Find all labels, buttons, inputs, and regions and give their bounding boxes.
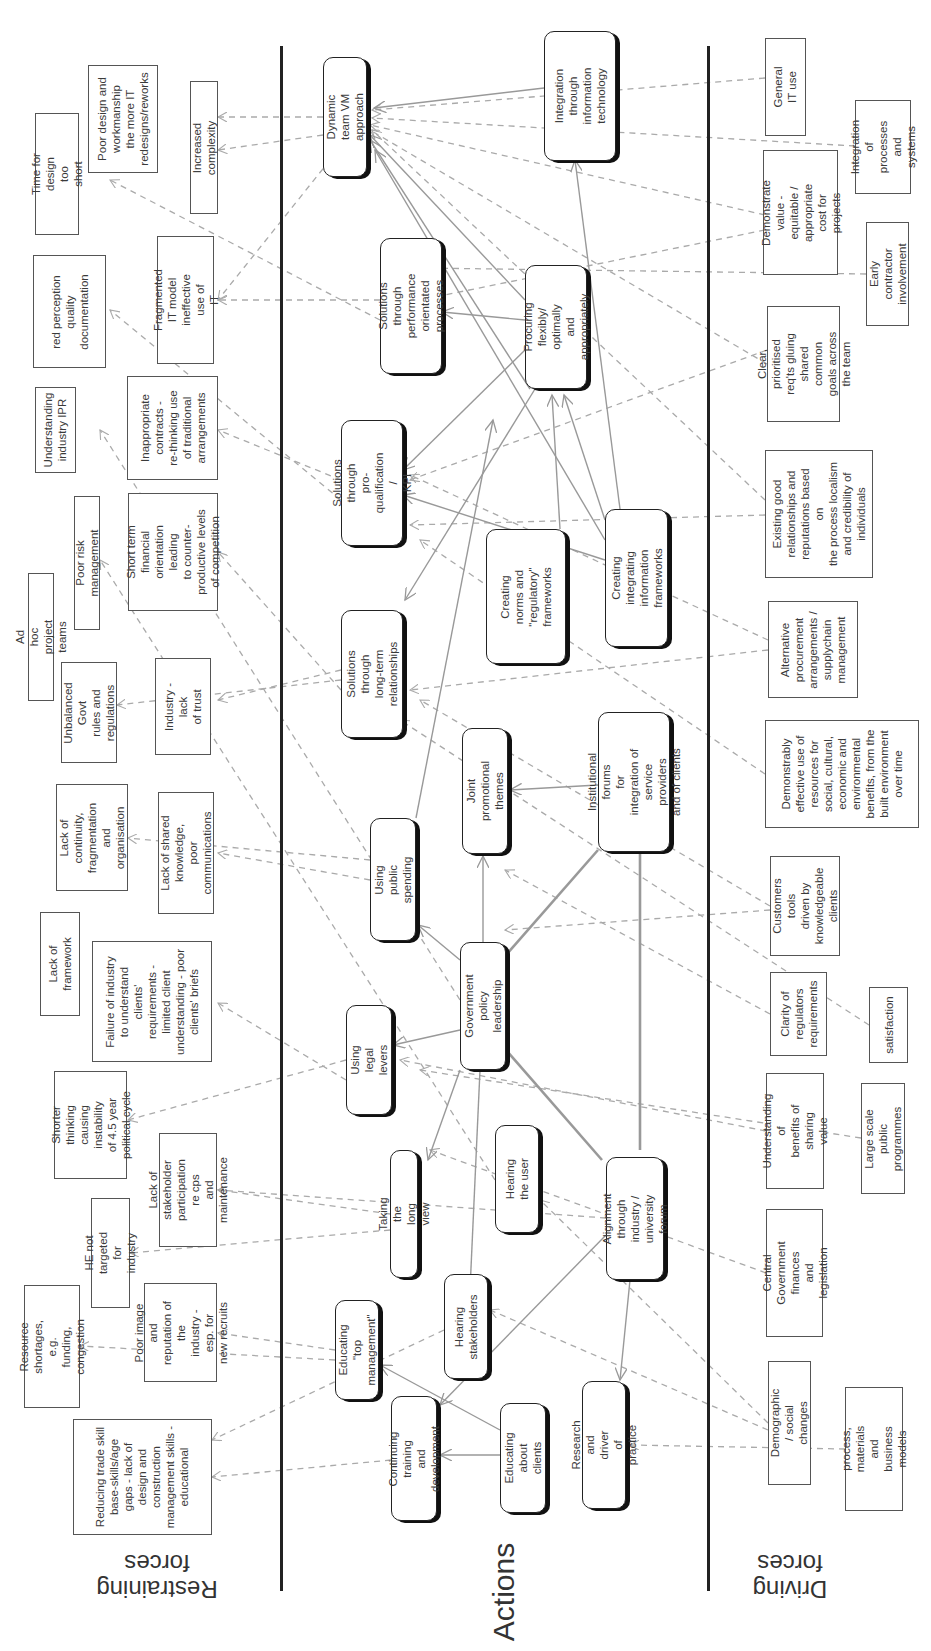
driving-force-node-d14: Central Government finances and legislat… (766, 1209, 823, 1337)
node-label: Existing good relationships and reputati… (770, 461, 868, 567)
node-label: Creating integrating information framewo… (609, 548, 665, 609)
driving-force-node-d2: Integration of processes and systems (855, 100, 911, 194)
right-divider-line (707, 46, 710, 1591)
action-node-a18: Educating "top management" (335, 1300, 379, 1400)
action-node-a21: Research and driver of practice (582, 1381, 626, 1509)
node-label: Increased complexity (190, 120, 218, 174)
node-label: Reducing trade skill base-skills/age gap… (93, 1426, 191, 1528)
restraining-force-node-r14: Lack of shared knowledge, poor communica… (158, 792, 214, 914)
restraining-force-node-r8: Poor risk management (74, 496, 100, 630)
node-label: Industry - lack of trust (162, 680, 204, 734)
node-label: Continuing training and development (386, 1426, 442, 1492)
node-label: Central Government finances and legislat… (760, 1241, 830, 1304)
node-label: satisfaction (882, 996, 896, 1054)
node-label: Poor risk management (73, 529, 101, 596)
action-node-a13: Using legal levers (346, 1005, 392, 1115)
restraining-forces-label: Restraining forces (87, 1550, 227, 1602)
node-label: Inappropriate contracts - re-thinking us… (138, 390, 208, 465)
node-label: Educating "top management" (336, 1314, 378, 1385)
action-node-a16: Alignment through industry / university … (606, 1157, 664, 1280)
restraining-force-node-r9: Short term financial orientation leading… (128, 493, 218, 611)
driving-force-node-d8: Demonstrably effective use of resources … (765, 720, 919, 828)
action-node-a17: Hearing stakeholders (444, 1274, 488, 1379)
node-label: Clarity of regulators requirements (778, 980, 820, 1047)
restraining-force-node-r2: Time for design too short (35, 113, 79, 235)
node-label: Customers tools driven by knowledgeable … (770, 868, 840, 945)
driving-force-node-d1: General IT use (765, 38, 806, 136)
node-label: Integration of processes and systems (848, 120, 918, 174)
action-node-a11: Using public spending (370, 818, 416, 941)
node-label: Shorter thinking causing instability of … (49, 1090, 133, 1161)
action-node-a15: Taking the long view (390, 1150, 418, 1278)
node-label: Early contractor involvement (867, 243, 909, 304)
restraining-force-node-r13: Lack of continuity, fragmentation and or… (56, 784, 128, 891)
node-label: Solutions through performance orientated… (376, 274, 446, 339)
node-label: Poor design and workmanship the more IT … (95, 72, 151, 165)
action-node-a3: Solutions through performance orientated… (380, 238, 442, 374)
action-node-a20: Educating about clients (500, 1403, 546, 1513)
restraining-force-node-r19: HE not targeted for industry (91, 1198, 130, 1308)
action-node-a7: Creating integrating information framewo… (605, 509, 668, 647)
restraining-force-node-r10: Ad hoc project teams (28, 573, 54, 701)
node-label: Solutions through pro-qualification / KP… (330, 453, 414, 514)
restraining-force-node-r22: Reducing trade skill base-skills/age gap… (73, 1419, 212, 1535)
action-node-a10: Institutional forums for integration of … (598, 712, 670, 852)
restraining-force-node-r21: Resource shortages, e.g. funding, conges… (24, 1285, 80, 1408)
restraining-force-node-r1: Poor design and workmanship the more IT … (88, 65, 158, 173)
action-node-a6: Creating norms and "regulatory" framewor… (486, 529, 566, 664)
node-label: HE not targeted for industry (83, 1232, 139, 1274)
node-label: Lack of shared knowledge, poor communica… (158, 811, 214, 894)
node-label: Lack of framework (46, 937, 74, 991)
restraining-force-node-r7: Inappropriate contracts - re-thinking us… (127, 376, 218, 480)
node-label: Procuring flexibly/ optimally and approp… (521, 294, 591, 360)
restraining-force-node-r6: Understanding industry IPR (35, 387, 76, 473)
action-node-a4: Procuring flexibly/ optimally and approp… (525, 265, 587, 389)
action-node-a9: Joint promotional themes (462, 728, 508, 854)
node-label: Using legal levers (348, 1038, 390, 1082)
driving-force-node-d4: Early contractor involvement (866, 222, 909, 326)
restraining-force-node-r5: Fragmented IT model ineffective use of I… (157, 236, 214, 364)
action-node-a12: Government policy leadership (460, 942, 506, 1070)
node-label: Alternative procurement arrangements / s… (778, 611, 848, 688)
node-label: Demonstrate value - equitable / appropri… (759, 176, 843, 249)
driving-force-node-d9: Customers tools driven by knowledgeable … (770, 856, 840, 956)
driving-force-node-d7: Alternative procurement arrangements / s… (768, 601, 858, 698)
left-divider-line (280, 46, 283, 1591)
driving-force-node-d12: Understanding of benefits of sharing val… (766, 1073, 824, 1189)
restraining-force-node-r18: Lack of stakeholder participation re cps… (159, 1133, 217, 1247)
driving-forces-label: Driving forces (730, 1550, 850, 1602)
restraining-force-node-r12: Industry - lack of trust (155, 658, 211, 755)
node-label: Alignment through industry / university … (600, 1191, 670, 1247)
driving-force-node-d16: process, materials and business models (845, 1387, 903, 1511)
restraining-force-node-r15: Lack of framework (40, 912, 80, 1016)
node-label: Demonstrably effective use of resources … (779, 730, 905, 819)
node-label: General IT use (772, 67, 800, 108)
node-label: Resource shortages, e.g. funding, conges… (17, 1319, 87, 1375)
action-node-a14: Hearing the user (495, 1125, 539, 1233)
node-label: Fragmented IT model ineffective use of I… (151, 269, 221, 331)
node-label: Research and driver of practice (569, 1420, 639, 1469)
node-label: Hearing the user (503, 1158, 531, 1200)
restraining-force-node-r3: Increased complexity (190, 81, 218, 214)
action-node-a2: Integration through information technolo… (544, 31, 616, 161)
action-node-a5: Solutions through pro-qualification / KP… (341, 420, 403, 546)
node-label: process, materials and business models (839, 1421, 909, 1477)
driving-force-node-d11: satisfaction (869, 987, 908, 1063)
node-label: Joint promotional themes (464, 761, 506, 821)
node-label: Lack of stakeholder participation re cps… (146, 1157, 230, 1223)
node-label: Institutional forums for integration of … (585, 747, 683, 817)
node-label: Large scale public programmes (862, 1106, 904, 1171)
node-label: Using public spending (372, 856, 414, 903)
action-node-a8: Solutions through long-term relationship… (341, 610, 403, 738)
node-label: Clear, prioritised req'ts gluing shared … (755, 329, 853, 400)
driving-force-node-d3: Demonstrate value - equitable / appropri… (763, 150, 838, 275)
restraining-force-node-r4: red perception quality documentation (33, 255, 106, 368)
driving-force-node-d13: Large scale public programmes (861, 1083, 905, 1194)
restraining-force-node-r17: Shorter thinking causing instability of … (54, 1071, 127, 1179)
action-node-a19: Continuing training and development (391, 1396, 437, 1521)
action-node-a1: Dynamic team VM approach (323, 57, 367, 177)
force-field-diagram: Poor design and workmanship the more IT … (0, 0, 931, 1651)
node-label: Creating norms and "regulatory" framewor… (498, 567, 554, 626)
node-label: Lack of continuity, fragmentation and or… (57, 802, 127, 872)
restraining-force-node-r20: Poor image and reputation of the industr… (144, 1283, 217, 1382)
